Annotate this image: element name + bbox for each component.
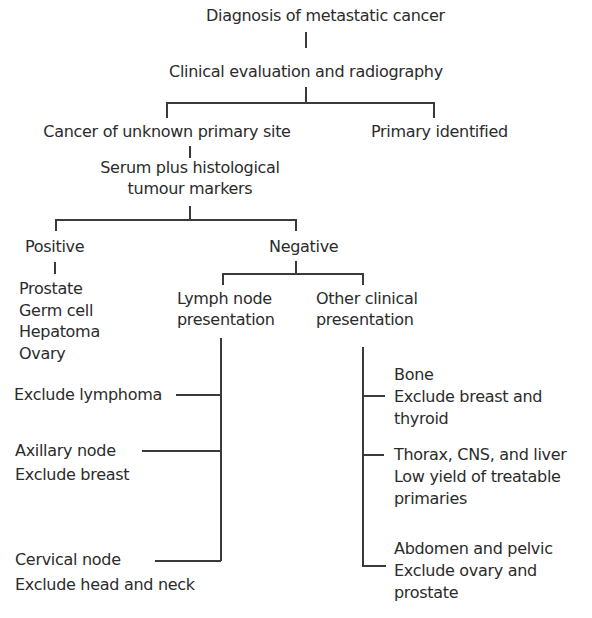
connector-clinical-branch [166, 102, 434, 104]
other-line-1: Other clinical [316, 288, 418, 309]
connector-to-other [362, 273, 364, 285]
connector-root-clinical [305, 32, 307, 48]
positive-list: Prostate Germ cell Hepatoma Ovary [19, 278, 100, 364]
node-negative: Negative [269, 236, 338, 257]
node-positive: Positive [25, 236, 84, 257]
axillary-line-2: Exclude breast [15, 464, 129, 485]
connector-positive-list [54, 262, 56, 274]
serum-line-2: tumour markers [70, 178, 310, 199]
lymph-line-2: presentation [177, 309, 275, 330]
abdomen-line-3: prostate [394, 582, 553, 604]
lymph-item-axillary: Axillary node Exclude breast [15, 440, 129, 485]
cervical-line-2: Exclude head and neck [15, 574, 195, 595]
node-lymph-node-presentation: Lymph node presentation [177, 288, 275, 330]
serum-line-1: Serum plus histological [70, 157, 310, 178]
connector-other-abdomen [362, 565, 386, 567]
connector-negative-branch [222, 273, 364, 275]
connector-serum-branch [55, 219, 296, 221]
connector-clinical-down [305, 87, 307, 103]
other-item-thorax: Thorax, CNS, and liver Low yield of trea… [394, 444, 567, 510]
connector-to-lymph [222, 273, 224, 285]
connector-other-bone [362, 395, 385, 397]
connector-other-spine [362, 347, 364, 566]
bone-line-2: Exclude breast and [394, 386, 542, 408]
connector-to-identified [433, 102, 435, 118]
abdomen-line-1: Abdomen and pelvic [394, 538, 553, 560]
positive-item-prostate: Prostate [19, 278, 100, 300]
node-diagnosis-metastatic-cancer: Diagnosis of metastatic cancer [206, 5, 406, 26]
positive-item-germ-cell: Germ cell [19, 300, 100, 322]
node-serum-tumour-markers: Serum plus histological tumour markers [70, 157, 310, 199]
connector-to-unknown [166, 102, 168, 118]
cervical-line-1: Cervical node [15, 549, 195, 570]
thorax-line-3: primaries [394, 488, 567, 510]
connector-lymph-axillary [142, 450, 221, 452]
connector-to-positive [55, 219, 57, 231]
node-cancer-unknown-primary: Cancer of unknown primary site [40, 121, 294, 142]
node-clinical-evaluation: Clinical evaluation and radiography [156, 61, 456, 82]
positive-item-hepatoma: Hepatoma [19, 321, 100, 343]
connector-lymph-lymphoma [176, 394, 221, 396]
node-other-clinical-presentation: Other clinical presentation [316, 288, 418, 330]
connector-to-negative [295, 219, 297, 231]
lymph-item-exclude-lymphoma: Exclude lymphoma [14, 384, 162, 405]
other-item-bone: Bone Exclude breast and thyroid [394, 364, 542, 430]
lymph-line-1: Lymph node [177, 288, 275, 309]
bone-line-3: thyroid [394, 408, 542, 430]
node-primary-identified: Primary identified [371, 121, 508, 142]
abdomen-line-2: Exclude ovary and [394, 560, 553, 582]
thorax-line-1: Thorax, CNS, and liver [394, 444, 567, 466]
positive-item-ovary: Ovary [19, 343, 100, 365]
other-item-abdomen: Abdomen and pelvic Exclude ovary and pro… [394, 538, 553, 604]
lymph-item-cervical: Cervical node Exclude head and neck [15, 549, 195, 595]
thorax-line-2: Low yield of treatable [394, 466, 567, 488]
connector-other-thorax [362, 454, 384, 456]
bone-line-1: Bone [394, 364, 542, 386]
connector-serum-down [189, 206, 191, 220]
axillary-line-1: Axillary node [15, 440, 129, 461]
other-line-2: presentation [316, 309, 418, 330]
